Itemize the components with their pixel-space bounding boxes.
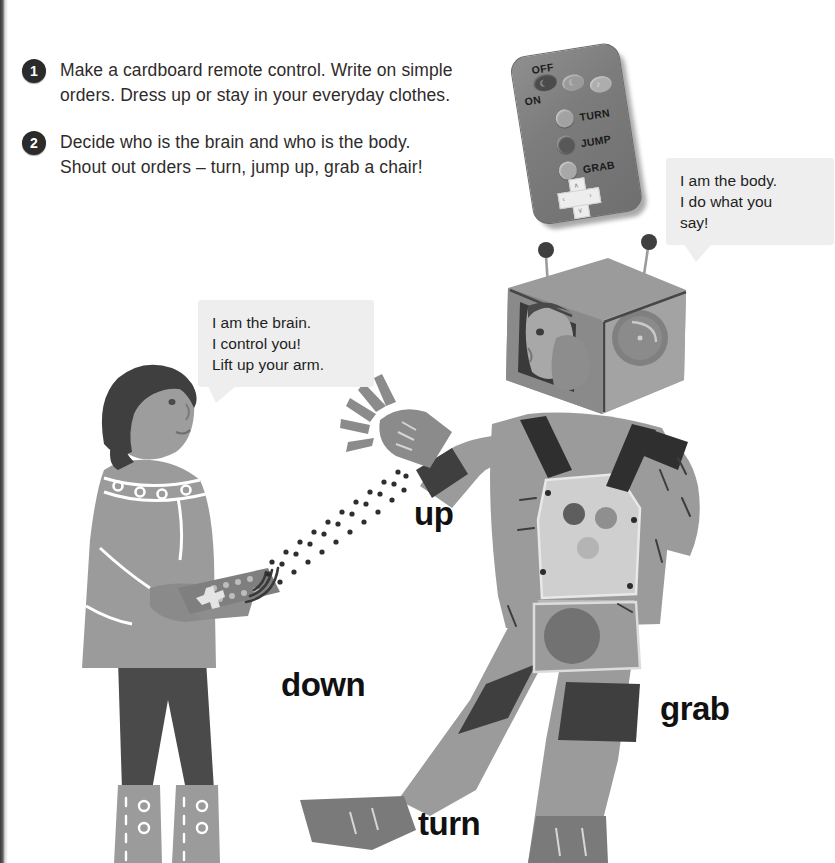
instruction-list: 1 Make a cardboard remote control. Write… bbox=[22, 58, 522, 202]
remote-turn-button[interactable] bbox=[554, 108, 575, 129]
remote-sound-button[interactable] bbox=[589, 75, 613, 94]
bubble-tail bbox=[684, 244, 712, 262]
moon-icon: ☾ bbox=[539, 78, 548, 89]
step-text: Decide who is the brain and who is the b… bbox=[60, 130, 423, 180]
step-number-badge: 2 bbox=[22, 131, 46, 155]
bubble-tail bbox=[208, 386, 236, 403]
remote-dpad[interactable]: ∧ ∨ ‹ › bbox=[556, 175, 601, 219]
action-word-turn: turn bbox=[418, 805, 480, 843]
bubble-body-line-1: I am the body. bbox=[680, 172, 777, 189]
bubble-body-line-3: say! bbox=[680, 214, 708, 231]
girl-figure bbox=[82, 365, 280, 863]
step-text: Make a cardboard remote control. Write o… bbox=[60, 58, 453, 108]
moon-icon: ☾ bbox=[568, 77, 577, 88]
bubble-brain-line-2: I control you! bbox=[212, 335, 301, 352]
dpad-down-icon[interactable]: ∨ bbox=[577, 206, 583, 214]
step-line-2: Shout out orders – turn, jump up, grab a… bbox=[60, 157, 423, 177]
remote-jump-label: JUMP bbox=[580, 133, 612, 150]
remote-on-label: ON bbox=[524, 93, 542, 107]
action-word-grab: grab bbox=[660, 690, 730, 728]
speech-bubble-brain: I am the brain. I control you! Lift up y… bbox=[198, 300, 374, 387]
dpad-up-icon[interactable]: ∧ bbox=[573, 181, 579, 189]
bubble-body-line-2: I do what you bbox=[680, 193, 772, 210]
page-canvas: 1 Make a cardboard remote control. Write… bbox=[0, 0, 835, 863]
bubble-brain-line-3: Lift up your arm. bbox=[212, 356, 324, 373]
instruction-step: 2 Decide who is the brain and who is the… bbox=[22, 130, 522, 180]
bubble-brain-line-1: I am the brain. bbox=[212, 314, 311, 331]
step-line-1: Decide who is the brain and who is the b… bbox=[60, 132, 410, 152]
remote-grab-label: GRAB bbox=[582, 158, 616, 175]
remote-jump-button[interactable] bbox=[556, 134, 577, 155]
remote-turn-label: TURN bbox=[579, 106, 611, 123]
step-line-2: orders. Dress up or stay in your everyda… bbox=[60, 85, 450, 105]
speech-bubble-body: I am the body. I do what you say! bbox=[666, 158, 834, 245]
instruction-step: 1 Make a cardboard remote control. Write… bbox=[22, 58, 522, 108]
action-word-up: up bbox=[414, 495, 453, 533]
step-line-1: Make a cardboard remote control. Write o… bbox=[60, 60, 453, 80]
step-number-badge: 1 bbox=[22, 59, 46, 83]
action-word-down: down bbox=[281, 666, 365, 704]
